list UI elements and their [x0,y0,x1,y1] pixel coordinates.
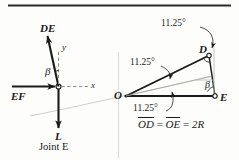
joint-caption: Joint E [39,142,68,153]
force-ef-label: EF [11,91,26,102]
point-e-node [213,94,217,98]
point-d-label: D [199,44,207,55]
point-o-label: O [114,90,122,101]
relation-value: 2R [192,118,204,130]
segment-od-symbol: OD [138,117,154,130]
leader-angle-bottom [166,92,173,111]
axis-x-label: x [91,81,95,90]
force-de-arrow [48,36,59,87]
angle-label-bottom: 11.25° [133,104,158,114]
equals-sign-2: = [183,118,189,130]
point-d-node [207,53,211,57]
figure-vector-layer [0,0,239,160]
angle-beta-label-right: β [205,80,210,90]
relation-equation: OD = OE = 2R [138,119,204,130]
equals-sign-1: = [157,118,163,130]
bisector-ray [126,76,212,96]
axis-y-label: y [62,43,66,52]
point-e-label: E [220,92,227,103]
angle-label-middle: 11.25° [130,58,155,68]
figure-container: DE EF L β y x Joint E O D E β 11.25° 11.… [0,0,239,160]
angle-arc-at-d [204,59,210,63]
force-de-label: DE [40,23,55,34]
joint-caption-text: Joint E [39,141,68,152]
segment-oe-symbol: OE [166,117,181,130]
angle-label-top: 11.25° [161,19,186,29]
angle-beta-label-left: β [45,66,50,77]
